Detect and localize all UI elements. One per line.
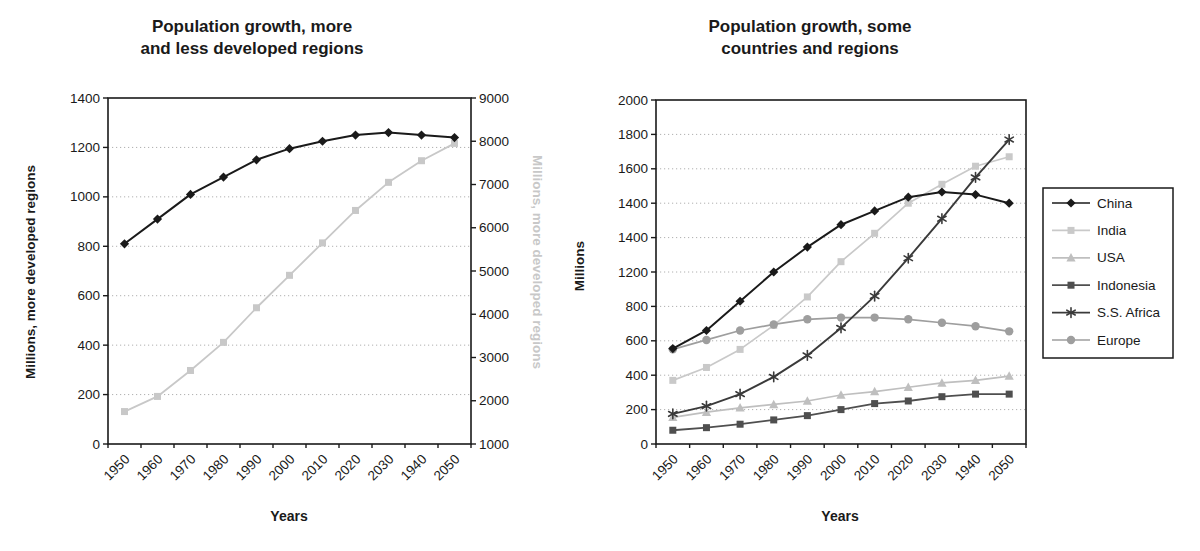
y-tick-label: 2000 xyxy=(618,93,648,108)
y-tick-label: 4000 xyxy=(479,307,509,322)
x-tick-label: 2020 xyxy=(885,452,917,484)
x-tick-label: 1980 xyxy=(200,452,232,484)
x-tick-label: 2010 xyxy=(851,452,883,484)
left-chart: 1400120010008006004002000900080007000600… xyxy=(70,91,509,484)
x-tick-label: 1990 xyxy=(233,452,265,484)
y-tick-label: 400 xyxy=(77,338,100,353)
x-tick-label: 1980 xyxy=(750,452,782,484)
series-more-developed-regions xyxy=(120,128,459,248)
y-tick-label: 5000 xyxy=(479,264,509,279)
y-tick-label: 800 xyxy=(77,239,100,254)
y-tick-label: 6000 xyxy=(479,220,509,235)
y-tick-label: 0 xyxy=(640,437,648,452)
x-tick-label: 2050 xyxy=(431,452,463,484)
x-tick-label: 2030 xyxy=(918,452,950,484)
legend-label: India xyxy=(1097,223,1127,238)
y-tick-label: 200 xyxy=(77,387,100,402)
x-tick-label: 1940 xyxy=(952,452,984,484)
y-tick-label: 2000 xyxy=(479,393,509,408)
y-tick-label: 1000 xyxy=(479,437,509,452)
x-tick-label: 1970 xyxy=(716,452,748,484)
x-tick-label: 2000 xyxy=(817,452,849,484)
legend-label: China xyxy=(1097,196,1133,211)
x-tick-label: 1960 xyxy=(683,452,715,484)
legend-label: Indonesia xyxy=(1097,278,1156,293)
legend-label: USA xyxy=(1097,250,1125,265)
charts-canvas: 1400120010008006004002000900080007000600… xyxy=(0,0,1200,551)
y-tick-label: 9000 xyxy=(479,91,509,106)
legend-label: S.S. Africa xyxy=(1097,305,1161,320)
y-tick-label: 8000 xyxy=(479,134,509,149)
y-tick-label: 3000 xyxy=(479,350,509,365)
figure-canvas: Population growth, more and less develop… xyxy=(0,0,1200,551)
x-tick-label: 2050 xyxy=(985,452,1017,484)
right-chart: 2000180016001400140012008006004002000195… xyxy=(618,93,1173,484)
y-tick-label: 1400 xyxy=(70,91,100,106)
y-tick-label: 600 xyxy=(625,333,648,348)
y-tick-label: 1400 xyxy=(618,230,648,245)
y-tick-label: 200 xyxy=(625,402,648,417)
x-tick-label: 1960 xyxy=(134,452,166,484)
x-tick-label: 1990 xyxy=(784,452,816,484)
x-axis-labels: 1950196019701980199020002010202020301940… xyxy=(649,452,1017,484)
x-tick-label: 2000 xyxy=(266,452,298,484)
x-tick-label: 1950 xyxy=(649,452,681,484)
y-tick-label: 1400 xyxy=(618,196,648,211)
x-tick-label: 1970 xyxy=(167,452,199,484)
y-tick-label: 600 xyxy=(77,288,100,303)
x-tick-label: 2010 xyxy=(299,452,331,484)
y-tick-label: 0 xyxy=(92,437,100,452)
x-axis-labels: 1950196019701980199020002010202020301940… xyxy=(101,452,463,484)
x-tick-label: 1940 xyxy=(398,452,430,484)
y-tick-label: 7000 xyxy=(479,177,509,192)
y-tick-label: 1600 xyxy=(618,161,648,176)
y-axis-ticks-right: 900080007000600050004000300020001000 xyxy=(471,91,509,452)
legend-label: Europe xyxy=(1097,333,1141,348)
y-axis-ticks-left: 1400120010008006004002000 xyxy=(70,91,108,452)
y-tick-label: 800 xyxy=(625,299,648,314)
y-axis-ticks-left: 2000180016001400140012008006004002000 xyxy=(618,93,656,452)
y-tick-label: 1800 xyxy=(618,127,648,142)
legend: ChinaIndiaUSAIndonesiaS.S. AfricaEurope xyxy=(1043,188,1173,358)
x-tick-label: 2020 xyxy=(332,452,364,484)
series-usa xyxy=(668,371,1014,421)
series-india xyxy=(669,153,1012,384)
y-tick-label: 1200 xyxy=(70,140,100,155)
x-tick-label: 1950 xyxy=(101,452,133,484)
y-tick-label: 1200 xyxy=(618,265,648,280)
y-tick-label: 1000 xyxy=(70,189,100,204)
y-tick-label: 400 xyxy=(625,368,648,383)
series-less-developed-regions xyxy=(121,140,458,415)
series-s-s-africa xyxy=(669,135,1014,419)
x-tick-label: 2030 xyxy=(365,452,397,484)
